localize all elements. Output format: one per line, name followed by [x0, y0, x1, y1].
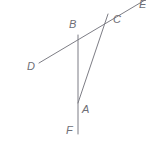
vertex-label-c: C [113, 14, 121, 25]
vertex-label-a: A [82, 104, 89, 115]
vertex-label-b: B [69, 19, 76, 30]
segment-c-to-a [78, 14, 108, 103]
line-d-to-e [39, 0, 145, 63]
geometry-figure: E C B D A F [0, 0, 146, 144]
vertex-label-f: F [66, 125, 73, 136]
vertex-label-e: E [139, 0, 146, 10]
vertex-label-d: D [27, 61, 35, 72]
